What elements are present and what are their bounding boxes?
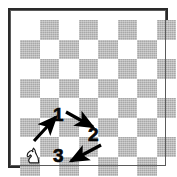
board-square[interactable] xyxy=(20,98,40,118)
board-square[interactable] xyxy=(137,137,157,157)
board-square[interactable] xyxy=(157,157,177,177)
board-square[interactable] xyxy=(79,79,99,99)
board-square[interactable] xyxy=(98,20,118,40)
board-square[interactable] xyxy=(20,59,40,79)
chess-diagram-root: 1 2 3 xyxy=(0,0,176,176)
board-square[interactable] xyxy=(59,20,79,40)
board-square[interactable] xyxy=(40,59,60,79)
board-square[interactable] xyxy=(40,79,60,99)
board-square[interactable] xyxy=(98,59,118,79)
board-square[interactable] xyxy=(79,157,99,177)
board-square[interactable] xyxy=(20,20,40,40)
move-label-1: 1 xyxy=(53,105,63,124)
board-square[interactable] xyxy=(20,40,40,60)
board-square[interactable] xyxy=(157,98,177,118)
board-square[interactable] xyxy=(137,20,157,40)
board-square[interactable] xyxy=(79,59,99,79)
board-square[interactable] xyxy=(98,137,118,157)
board-square[interactable] xyxy=(157,79,177,99)
board-square[interactable] xyxy=(59,79,79,99)
board-square[interactable] xyxy=(98,157,118,177)
board-square[interactable] xyxy=(137,98,157,118)
board-square[interactable] xyxy=(137,79,157,99)
board-square[interactable] xyxy=(137,118,157,138)
board-square[interactable] xyxy=(157,40,177,60)
board-square[interactable] xyxy=(137,40,157,60)
move-label-2: 2 xyxy=(88,125,98,144)
board-square[interactable] xyxy=(98,98,118,118)
board-square[interactable] xyxy=(118,59,138,79)
board-square[interactable] xyxy=(79,20,99,40)
board-square[interactable] xyxy=(118,79,138,99)
board-square[interactable] xyxy=(79,40,99,60)
board-square[interactable] xyxy=(137,59,157,79)
board-square[interactable] xyxy=(118,118,138,138)
board-square[interactable] xyxy=(157,59,177,79)
board-square[interactable] xyxy=(79,98,99,118)
board-square[interactable] xyxy=(118,157,138,177)
board-square[interactable] xyxy=(118,98,138,118)
board-square[interactable] xyxy=(118,40,138,60)
board-square[interactable] xyxy=(59,40,79,60)
board-square[interactable] xyxy=(98,79,118,99)
board-square[interactable] xyxy=(98,40,118,60)
board-square[interactable] xyxy=(98,118,118,138)
board-square[interactable] xyxy=(40,20,60,40)
board-square[interactable] xyxy=(137,157,157,177)
board-square[interactable] xyxy=(118,20,138,40)
board-square[interactable] xyxy=(157,137,177,157)
board-square[interactable] xyxy=(157,118,177,138)
board-square[interactable] xyxy=(40,40,60,60)
move-label-3: 3 xyxy=(53,146,63,165)
board-square[interactable] xyxy=(20,79,40,99)
board-square[interactable] xyxy=(118,137,138,157)
board-square[interactable] xyxy=(157,20,177,40)
board-square[interactable] xyxy=(20,118,40,138)
knight-icon[interactable] xyxy=(23,145,44,166)
board-square[interactable] xyxy=(59,59,79,79)
